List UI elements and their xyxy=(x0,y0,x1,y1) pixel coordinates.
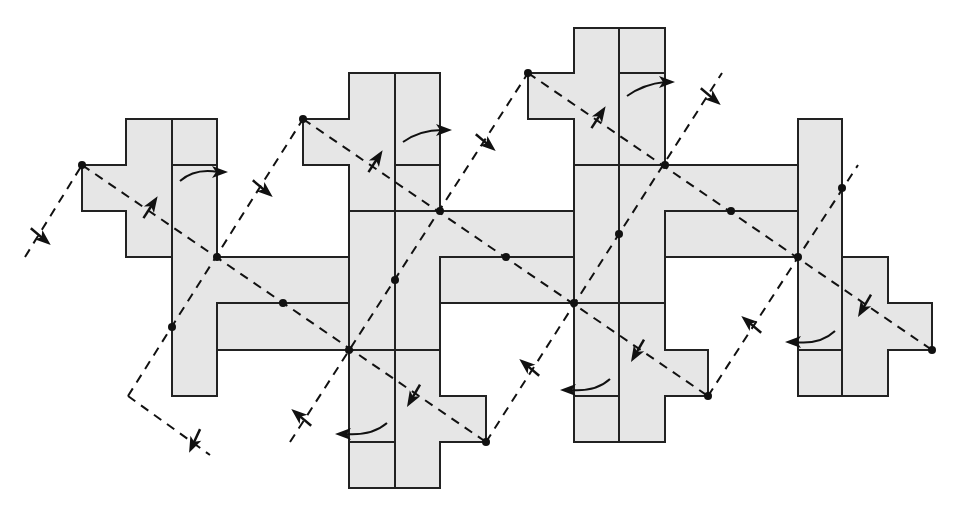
tile-1c xyxy=(217,303,349,350)
arrow-icon xyxy=(249,176,277,202)
tile-2e xyxy=(349,350,395,488)
arrow-icon xyxy=(27,224,55,250)
center-dot xyxy=(570,299,578,307)
center-dot xyxy=(391,276,399,284)
tile-4b xyxy=(842,257,932,396)
tile-2f xyxy=(395,350,486,488)
center-dot xyxy=(502,253,510,261)
tile-2a xyxy=(303,73,395,211)
center-dot xyxy=(727,207,735,215)
center-dot xyxy=(345,346,353,354)
tiling-diagram xyxy=(0,0,953,512)
tile-1a xyxy=(82,119,172,257)
tile-3f xyxy=(619,303,708,442)
center-dot xyxy=(482,438,490,446)
center-dot xyxy=(928,346,936,354)
center-dot xyxy=(78,161,86,169)
tile-2d xyxy=(440,257,574,303)
center-dot xyxy=(524,69,532,77)
center-dot xyxy=(794,253,802,261)
tile-4a xyxy=(798,119,842,350)
center-dot xyxy=(838,184,846,192)
tile-3a xyxy=(528,28,619,165)
center-dot xyxy=(299,115,307,123)
center-dot xyxy=(615,230,623,238)
arrow-icon xyxy=(184,427,206,456)
center-dot xyxy=(168,323,176,331)
tile-3e xyxy=(574,303,619,442)
tile-3d xyxy=(665,211,798,257)
arrow-icon xyxy=(697,84,725,110)
tile-4c xyxy=(798,350,842,396)
tile-2c xyxy=(349,211,395,350)
center-dot xyxy=(436,207,444,215)
mirror-line xyxy=(25,165,82,257)
tile-3c xyxy=(574,165,619,303)
center-dot xyxy=(279,299,287,307)
center-dot xyxy=(661,161,669,169)
center-dot xyxy=(213,253,221,261)
center-dot xyxy=(704,392,712,400)
mirror-line xyxy=(128,396,210,455)
